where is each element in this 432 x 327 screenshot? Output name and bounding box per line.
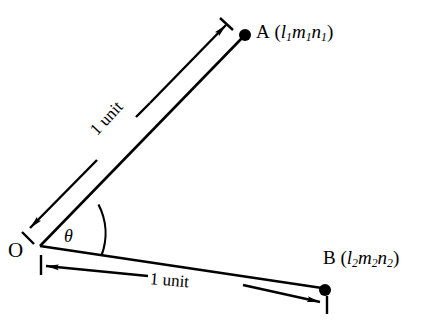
point-a-close-paren: ) — [327, 21, 333, 42]
point-b-close-paren: ) — [393, 247, 399, 268]
point-a-n: n — [312, 21, 322, 42]
point-b-name: B — [323, 247, 336, 268]
point-a-label: A (l1m1n1) — [256, 22, 333, 44]
dimension-line-oa — [22, 18, 233, 244]
point-b-m: m — [358, 247, 372, 268]
angle-arc — [99, 205, 106, 256]
length-label-ob: 1 unit — [149, 270, 190, 290]
dimension-tick-o-upper — [22, 232, 34, 244]
diagram-canvas — [0, 0, 432, 327]
origin-label: O — [8, 240, 23, 261]
point-a-name: A — [256, 21, 270, 42]
point-b-label: B (l2m2n2) — [323, 248, 399, 270]
point-b-dot — [319, 284, 331, 296]
point-a-dot — [239, 29, 251, 41]
ray-oa — [40, 37, 243, 246]
vector-angle-diagram: A (l1m1n1) B (l2m2n2) O θ 1 unit 1 unit — [0, 0, 432, 327]
point-b-n: n — [378, 247, 388, 268]
point-a-m: m — [292, 21, 306, 42]
angle-theta-label: θ — [64, 227, 73, 245]
